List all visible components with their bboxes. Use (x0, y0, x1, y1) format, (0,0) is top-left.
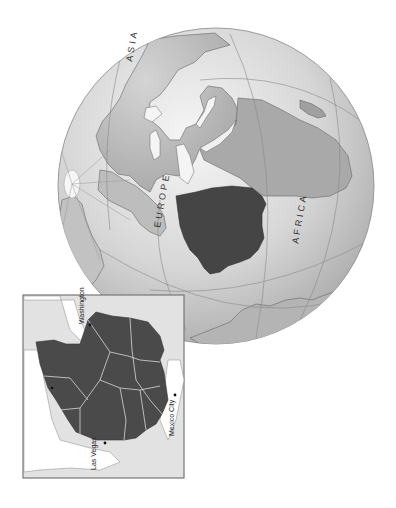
city-marker-las-vegas (104, 442, 107, 445)
label-washington: Washington (78, 287, 86, 324)
city-marker-mexico-city (174, 394, 177, 397)
label-las-vegas: Las Vegas (90, 437, 98, 470)
city-marker-unreadable (51, 387, 53, 389)
label-mexico-city: Mexico City (168, 399, 176, 436)
map-figure: ASIA EUROPE AFRICA (0, 0, 396, 508)
inset-map: Washington Las Vegas Mexico City (23, 287, 184, 478)
city-marker-washington (89, 324, 92, 327)
